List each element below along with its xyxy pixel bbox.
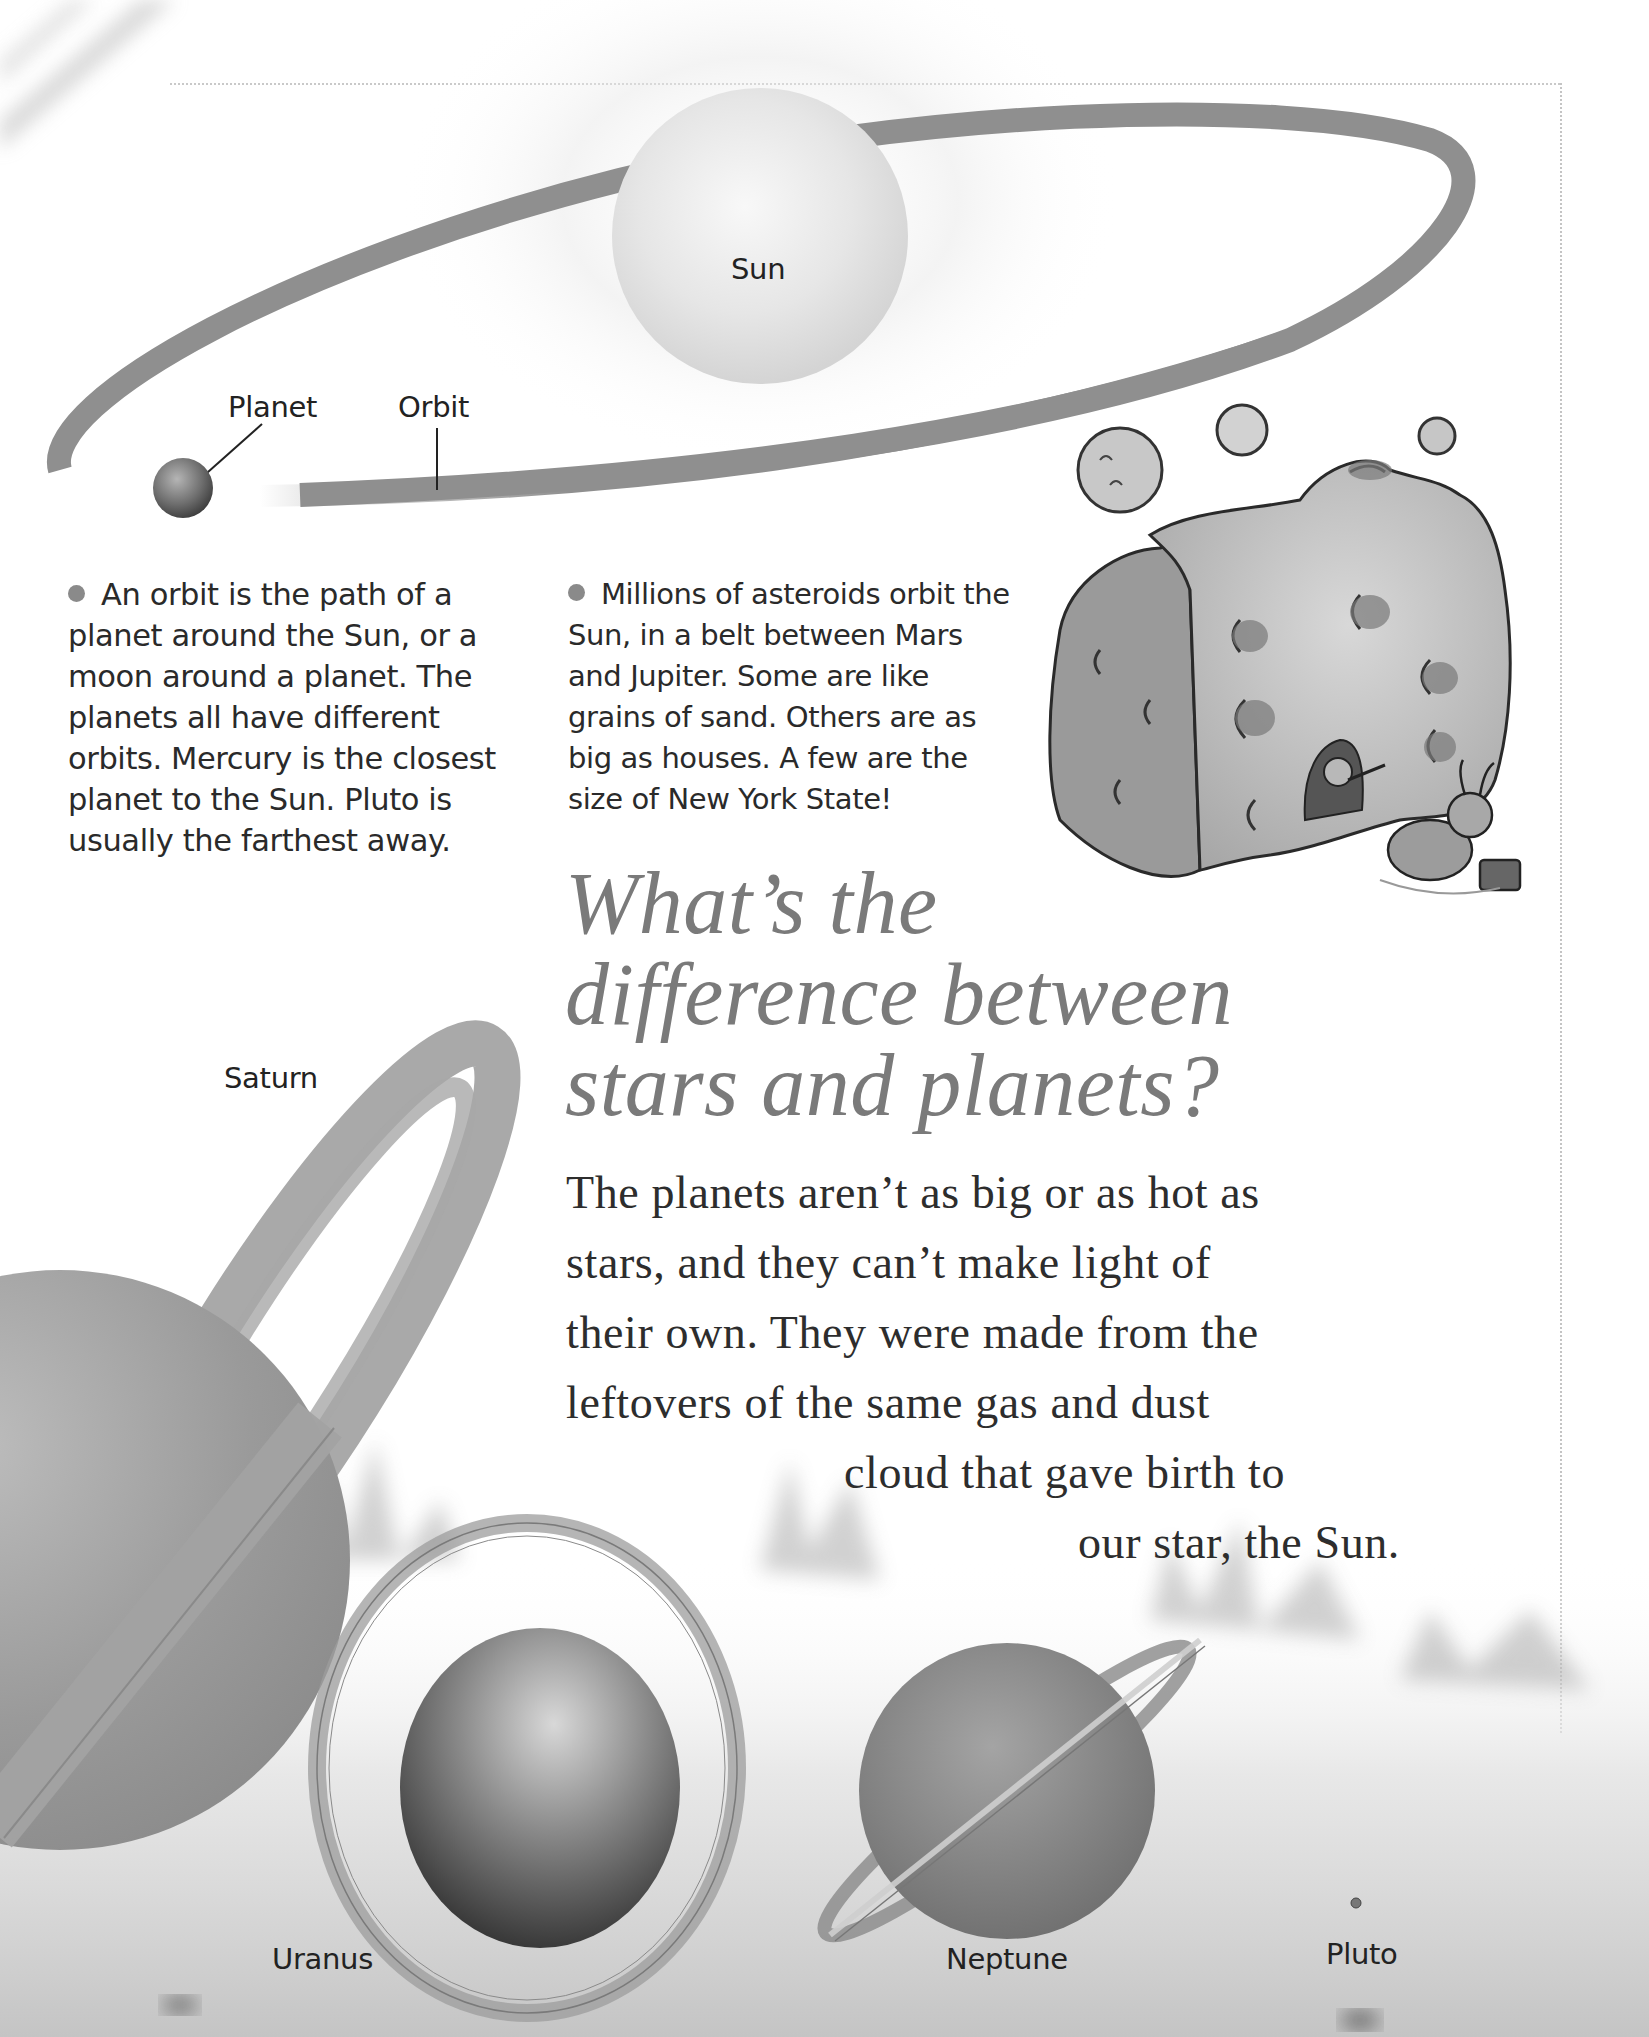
small-asteroid-3 bbox=[1419, 418, 1455, 454]
asteroid-side-face bbox=[1050, 546, 1200, 876]
bullet-dot-icon bbox=[68, 585, 85, 602]
planet-leader-line bbox=[199, 424, 262, 480]
asteroid-illustration bbox=[1040, 400, 1560, 920]
fact-asteroids: Millions of asteroids orbit the Sun, in … bbox=[568, 574, 1010, 820]
alien-head bbox=[1448, 793, 1492, 837]
neptune-label: Neptune bbox=[946, 1942, 1068, 1976]
bullet-dot-icon bbox=[568, 584, 585, 601]
planet-label: Planet bbox=[228, 390, 317, 424]
pluto-sphere bbox=[1351, 1898, 1361, 1908]
uranus-sphere bbox=[400, 1628, 680, 1948]
planet-sphere bbox=[153, 458, 213, 518]
orbit-label: Orbit bbox=[398, 390, 469, 424]
uranus-label: Uranus bbox=[272, 1942, 373, 1976]
character-head bbox=[1324, 758, 1352, 786]
answer-paragraph: The planets aren’t as big or as hot as s… bbox=[566, 1158, 1400, 1578]
saturn-label: Saturn bbox=[224, 1061, 318, 1095]
briefcase bbox=[1480, 860, 1520, 890]
sun-sphere bbox=[612, 88, 908, 384]
sun-label: Sun bbox=[731, 252, 785, 286]
fact-orbit: An orbit is the path of a planet around … bbox=[68, 574, 496, 861]
small-asteroid-2 bbox=[1217, 405, 1267, 455]
small-asteroid-1 bbox=[1078, 428, 1162, 512]
pluto-label: Pluto bbox=[1326, 1937, 1398, 1971]
